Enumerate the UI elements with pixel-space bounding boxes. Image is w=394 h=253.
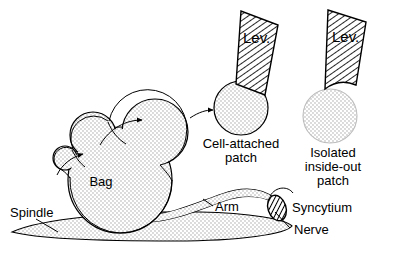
label-arm: Arm xyxy=(215,199,239,214)
label-isolated-line3: patch xyxy=(317,173,349,188)
label-syncytium: Syncytium xyxy=(292,200,352,215)
label-isolated-line2: inside-out xyxy=(305,159,362,174)
figure-root: Lev. Lev. Spindle Bag Arm Syncytium Nerv… xyxy=(0,0,394,253)
label-spindle: Spindle xyxy=(10,205,53,220)
label-isolated-line1: Isolated xyxy=(310,145,356,160)
pipette-isolated xyxy=(325,10,366,89)
diagram-svg: Lev. Lev. Spindle Bag Arm Syncytium Nerv… xyxy=(0,0,394,253)
pipette-label-left: Lev. xyxy=(243,29,270,46)
arrow-large-to-patch xyxy=(190,110,213,118)
pipette-cell-attached xyxy=(236,11,278,95)
label-nerve: Nerve xyxy=(294,222,329,237)
label-bag: Bag xyxy=(89,174,112,189)
label-cell-attached-line2: patch xyxy=(225,150,257,165)
label-cell-attached-line1: Cell-attached xyxy=(203,136,280,151)
isolated-patch-group: Lev. xyxy=(303,10,366,143)
cell-attached-patch-group: Lev. xyxy=(214,11,278,135)
pipette-label-right: Lev. xyxy=(332,28,359,45)
isolated-patch-circle xyxy=(303,89,357,143)
